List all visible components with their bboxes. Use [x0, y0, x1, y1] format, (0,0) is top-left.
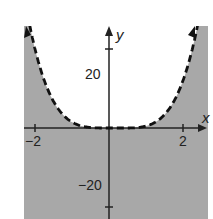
- inequality-graph: −2 2 20 −20 x y: [0, 0, 213, 219]
- y-tick-label-20: 20: [85, 66, 101, 82]
- y-tick-label-neg20: −20: [78, 177, 102, 193]
- x-axis-label: x: [201, 109, 210, 126]
- curve-right-arrow-icon: [188, 26, 195, 38]
- x-tick-label-neg2: −2: [25, 133, 41, 149]
- x-tick-label-2: 2: [179, 133, 187, 149]
- shaded-region: [22, 0, 208, 219]
- y-axis-arrow-icon: [105, 26, 113, 36]
- y-axis-label: y: [115, 26, 125, 43]
